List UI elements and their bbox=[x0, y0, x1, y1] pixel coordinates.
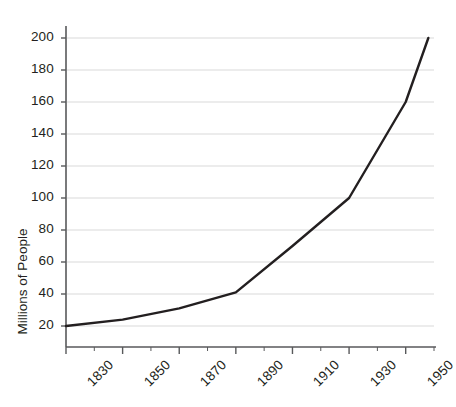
plot-area bbox=[0, 0, 456, 407]
axis-spines bbox=[66, 26, 436, 347]
line-chart: 20406080100120140160180200 1830185018701… bbox=[0, 0, 456, 407]
y-tick-label: 100 bbox=[8, 189, 54, 204]
y-tick-label: 180 bbox=[8, 61, 54, 76]
y-tick-label: 120 bbox=[8, 157, 54, 172]
y-axis-title-text: Millions of People bbox=[15, 210, 30, 354]
data-series-line bbox=[66, 38, 428, 326]
gridlines bbox=[67, 38, 434, 326]
y-axis-title: Millions of People bbox=[2, 216, 22, 356]
y-tick-label: 200 bbox=[8, 29, 54, 44]
y-tick-label: 140 bbox=[8, 125, 54, 140]
y-tick-label: 160 bbox=[8, 93, 54, 108]
x-axis-ticks bbox=[66, 347, 434, 354]
